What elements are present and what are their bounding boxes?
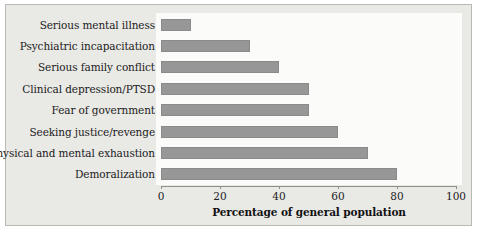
- category-label: Physical and mental exhaustion: [0, 147, 155, 159]
- x-tick-label: 20: [213, 190, 226, 202]
- bar: [161, 19, 191, 31]
- x-axis-title: Percentage of general population: [161, 206, 457, 218]
- x-tick-label: 80: [390, 190, 403, 202]
- category-label: Clinical depression/PTSD: [22, 83, 155, 95]
- bar: [161, 168, 397, 180]
- bar-track: [161, 121, 456, 142]
- bar-track: [161, 14, 456, 35]
- x-tick-label: 60: [331, 190, 344, 202]
- category-label: Seeking justice/revenge: [29, 126, 155, 138]
- bar-track: [161, 57, 456, 78]
- bar-row: Seeking justice/revenge: [6, 121, 473, 142]
- x-tick-mark: [279, 186, 280, 189]
- bar-track: [161, 35, 456, 56]
- x-tick-label: 100: [446, 190, 466, 202]
- x-tick-mark: [456, 186, 457, 189]
- x-tick-label: 40: [272, 190, 285, 202]
- category-label: Psychiatric incapacitation: [20, 40, 155, 52]
- bar-row: Serious family conflict: [6, 57, 473, 78]
- category-label: Serious mental illness: [40, 19, 155, 31]
- bar-row: Clinical depression/PTSD: [6, 78, 473, 99]
- x-tick-mark: [338, 186, 339, 189]
- bar-row: Psychiatric incapacitation: [6, 35, 473, 56]
- bar: [161, 40, 250, 52]
- x-axis-line: [161, 186, 457, 187]
- chart-panel: Serious mental illnessPsychiatric incapa…: [5, 4, 472, 226]
- category-label: Serious family conflict: [38, 61, 155, 73]
- x-tick-mark: [397, 186, 398, 189]
- bar-track: [161, 142, 456, 163]
- bar-track: [161, 164, 456, 185]
- bar: [161, 147, 368, 159]
- bar: [161, 126, 338, 138]
- bar-chart-figure: Serious mental illnessPsychiatric incapa…: [0, 0, 477, 231]
- bar: [161, 104, 309, 116]
- x-tick-mark: [220, 186, 221, 189]
- bar-row: Serious mental illness: [6, 14, 473, 35]
- x-tick-label: 0: [158, 190, 165, 202]
- bar-rows-container: Serious mental illnessPsychiatric incapa…: [6, 14, 473, 185]
- bar-row: Demoralization: [6, 164, 473, 185]
- category-label: Fear of government: [52, 104, 155, 116]
- bar: [161, 61, 279, 73]
- bar-track: [161, 78, 456, 99]
- bar-row: Physical and mental exhaustion: [6, 142, 473, 163]
- bar-row: Fear of government: [6, 100, 473, 121]
- bar-track: [161, 100, 456, 121]
- bar: [161, 83, 309, 95]
- x-tick-mark: [161, 186, 162, 189]
- category-label: Demoralization: [75, 168, 155, 180]
